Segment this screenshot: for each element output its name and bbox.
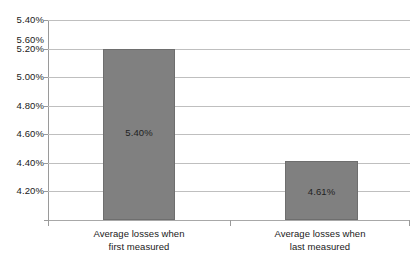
- y-tick-label: 5.40%: [2, 15, 44, 25]
- y-tick-label: 4.40%: [2, 158, 44, 168]
- y-tick-label: 4.60%: [2, 129, 44, 139]
- x-axis-labels: Average losses when first measured Avera…: [48, 228, 410, 262]
- bar-value-label: 5.40%: [104, 128, 174, 138]
- gridline: [48, 20, 410, 21]
- y-tick-label: 4.20%: [2, 186, 44, 196]
- y-tick-label: 5.00%: [2, 72, 44, 82]
- x-tick-mark: [230, 220, 231, 226]
- y-tick-label: 5.20%: [2, 44, 44, 54]
- bar-average-losses-last-measured[interactable]: 4.61%: [285, 161, 358, 220]
- bar-average-losses-first-measured[interactable]: 5.40%: [103, 49, 175, 221]
- x-category-label-line: Average losses when: [230, 228, 410, 241]
- x-category-label-line: last measured: [230, 241, 410, 254]
- x-category-label-line: Average losses when: [48, 228, 230, 241]
- plot-area: 5.40% 4.61%: [48, 20, 410, 220]
- x-category-label-line: first measured: [48, 241, 230, 254]
- x-axis-ticks: [48, 220, 410, 228]
- y-axis: 5.60% 5.40% 5.20% 5.00% 4.80% 4.60% 4.40…: [0, 20, 44, 220]
- bar-value-label: 4.61%: [286, 187, 357, 197]
- bar-chart: 5.60% 5.40% 5.20% 5.00% 4.80% 4.60% 4.40…: [0, 0, 420, 266]
- x-category-label-first-measured: Average losses when first measured: [48, 228, 230, 253]
- y-tick-label: 4.80%: [2, 101, 44, 111]
- x-tick-mark: [48, 220, 49, 226]
- x-category-label-last-measured: Average losses when last measured: [230, 228, 410, 253]
- x-tick-mark: [409, 220, 410, 226]
